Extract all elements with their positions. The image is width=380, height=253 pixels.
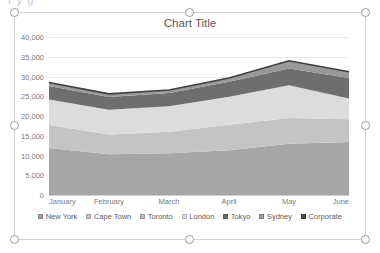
legend-swatch-icon — [182, 214, 187, 219]
legend-label: Corporate — [308, 212, 341, 221]
legend-label: Tokyo — [231, 212, 251, 221]
legend-item-corporate[interactable]: Corporate — [301, 212, 342, 221]
legend-swatch-icon — [38, 214, 43, 219]
resize-handle-bottom-left[interactable] — [10, 235, 19, 244]
legend-label: New York — [46, 212, 78, 221]
legend-item-tokyo[interactable]: Tokyo — [223, 212, 250, 221]
y-axis-tick-label: 40,000 — [21, 33, 44, 42]
legend-swatch-icon — [223, 214, 228, 219]
x-axis-tick-label: March — [159, 197, 180, 206]
legend-item-cape-town[interactable]: Cape Town — [86, 212, 131, 221]
resize-handle-top-center[interactable] — [185, 8, 194, 17]
resize-handle-bottom-center[interactable] — [185, 235, 194, 244]
chart-object[interactable]: Chart Title 05,00010,00015,00020,00025,0… — [14, 12, 366, 240]
y-axis-tick-label: 15,000 — [21, 131, 44, 140]
legend-item-toronto[interactable]: Toronto — [140, 212, 173, 221]
legend-swatch-icon — [301, 214, 306, 219]
legend-swatch-icon — [259, 214, 264, 219]
y-axis-tick-label: 20,000 — [21, 112, 44, 121]
chart-title[interactable]: Chart Title — [15, 17, 365, 29]
chart-legend[interactable]: New YorkCape TownTorontoLondonTokyoSydne… — [15, 212, 365, 221]
y-axis-tick-label: 30,000 — [21, 72, 44, 81]
y-axis-labels: 05,00010,00015,00020,00025,00030,00035,0… — [15, 37, 47, 195]
resize-handle-top-left[interactable] — [10, 8, 19, 17]
legend-item-new-york[interactable]: New York — [38, 212, 77, 221]
legend-label: Toronto — [148, 212, 173, 221]
y-axis-tick-label: 10,000 — [21, 151, 44, 160]
stacked-area-series[interactable] — [49, 37, 349, 195]
legend-label: London — [189, 212, 214, 221]
legend-label: Cape Town — [94, 212, 131, 221]
cutoff-text-above-chart: r y g — [8, 0, 168, 6]
y-axis-tick-label: 5,000 — [25, 171, 44, 180]
y-axis-tick-label: 25,000 — [21, 92, 44, 101]
x-axis-tick-label: April — [221, 197, 236, 206]
x-axis-tick-label: May — [282, 197, 296, 206]
legend-item-london[interactable]: London — [182, 212, 215, 221]
resize-handle-top-right[interactable] — [361, 8, 370, 17]
legend-swatch-icon — [140, 214, 145, 219]
y-axis-tick-label: 35,000 — [21, 52, 44, 61]
resize-handle-bottom-right[interactable] — [361, 235, 370, 244]
resize-handle-middle-right[interactable] — [361, 121, 370, 130]
x-axis-labels: JanuaryFebruaryMarchAprilMayJune — [49, 197, 349, 209]
plot-area[interactable] — [49, 37, 349, 195]
legend-swatch-icon — [86, 214, 91, 219]
y-axis-tick-label: 0 — [40, 191, 44, 200]
x-axis-tick-label: January — [49, 197, 76, 206]
x-axis-tick-label: February — [94, 197, 124, 206]
x-axis-tick-label: June — [333, 197, 349, 206]
resize-handle-middle-left[interactable] — [10, 121, 19, 130]
legend-label: Sydney — [267, 212, 292, 221]
legend-item-sydney[interactable]: Sydney — [259, 212, 292, 221]
gridline-0 — [49, 195, 349, 196]
